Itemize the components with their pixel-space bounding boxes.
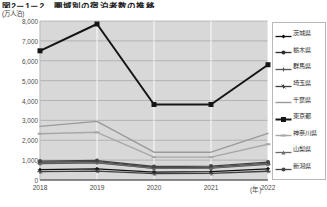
legend-label: 群馬県 (293, 63, 311, 69)
legend-label: 茨城県 (293, 30, 311, 36)
legend-label: 山梨県 (293, 146, 311, 152)
y-axis-tick: 4,000 (4, 97, 38, 104)
x-axis-tick: 2021 (196, 184, 226, 191)
y-axis-tick: 8,000 (4, 18, 38, 25)
legend-swatch-icon (275, 127, 292, 138)
legend-label: 埼玉県 (293, 80, 311, 86)
x-axis-tick: 2019 (82, 184, 112, 191)
legend-item: 東京都 (274, 108, 324, 125)
y-axis-tick: 7,000 (4, 37, 38, 44)
legend-swatch-icon (275, 78, 292, 89)
legend-swatch-icon (275, 61, 292, 72)
legend-item: 埼玉県 (274, 75, 324, 92)
x-axis-unit-label: (年) (250, 184, 261, 194)
x-axis-tick: 2018 (25, 184, 55, 191)
legend-swatch-icon (275, 44, 292, 55)
y-axis-tick: 1,000 (4, 157, 38, 164)
chart-legend: 茨城県栃木県群馬県埼玉県千葉県東京都神奈川県山梨県新潟県 (272, 22, 326, 180)
y-axis-tick: 6,000 (4, 57, 38, 64)
legend-swatch-icon (275, 28, 292, 39)
legend-item: 新潟県 (274, 158, 324, 175)
legend-swatch-icon (275, 111, 292, 122)
x-axis-tick: 2020 (139, 184, 169, 191)
legend-swatch-icon (275, 94, 292, 105)
legend-item: 茨城県 (274, 25, 324, 42)
legend-label: 東京都 (293, 113, 311, 119)
y-axis-tick: 3,000 (4, 117, 38, 124)
legend-item: 栃木県 (274, 42, 324, 59)
y-axis-tick: 5,000 (4, 77, 38, 84)
legend-label: 千葉県 (293, 97, 311, 103)
legend-label: 栃木県 (293, 47, 311, 53)
y-axis-tick-labels: 01,0002,0003,0004,0005,0006,0007,0008,00… (0, 0, 38, 207)
legend-item: 千葉県 (274, 91, 324, 108)
legend-swatch-icon (275, 161, 292, 172)
legend-swatch-icon (275, 144, 292, 155)
legend-label: 新潟県 (293, 163, 311, 169)
y-axis-tick: 2,000 (4, 137, 38, 144)
legend-item: 群馬県 (274, 58, 324, 75)
legend-item: 神奈川県 (274, 125, 324, 142)
legend-label: 神奈川県 (293, 130, 317, 136)
y-axis-tick: 0 (4, 177, 38, 184)
legend-item: 山梨県 (274, 141, 324, 158)
